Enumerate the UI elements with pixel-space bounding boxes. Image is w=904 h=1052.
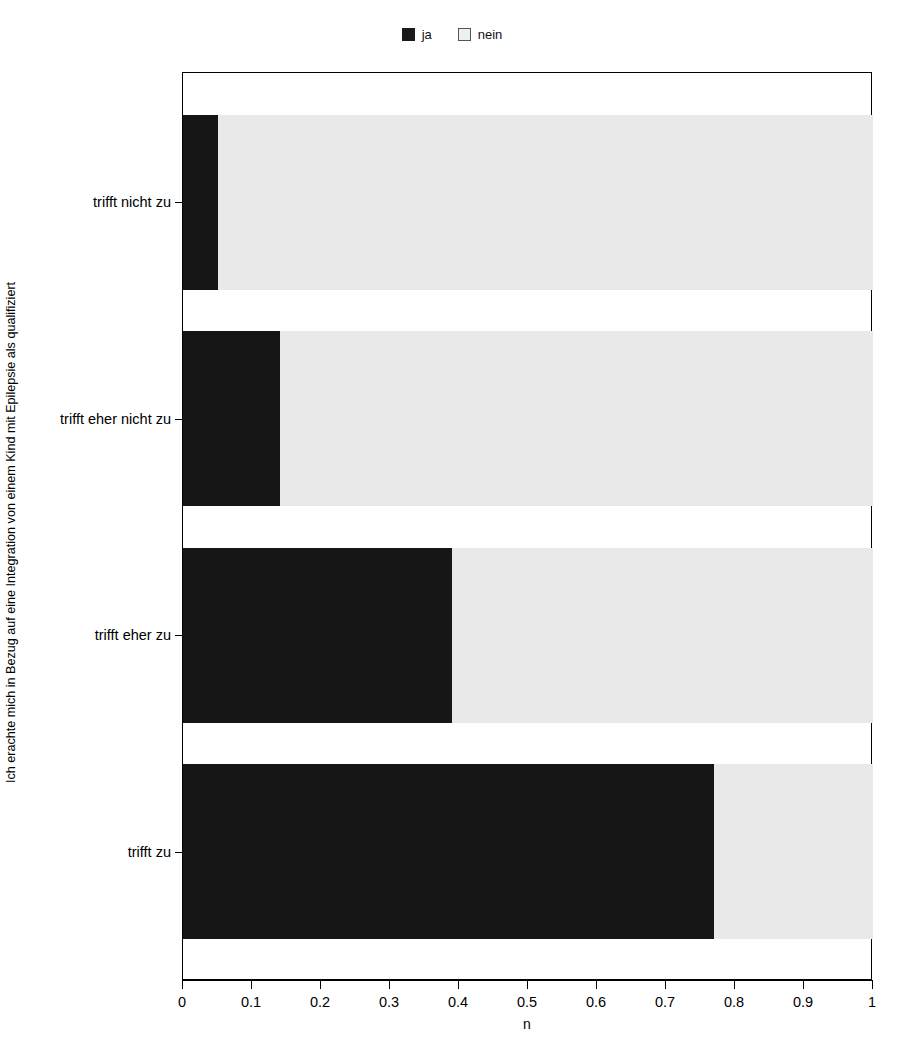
x-axis-tick — [596, 980, 597, 989]
x-axis-tick — [389, 980, 390, 989]
bar-segment-ja — [183, 764, 714, 939]
x-axis-tick — [251, 980, 252, 989]
x-axis-tick — [320, 980, 321, 989]
y-axis-tick — [175, 852, 183, 853]
x-axis-tick-label: 0 — [178, 994, 186, 1010]
x-axis-tick — [182, 980, 183, 989]
bar-segment-nein — [280, 331, 873, 506]
x-axis-tick — [527, 980, 528, 989]
x-axis-tick-label: 1 — [868, 994, 876, 1010]
x-axis-title: n — [182, 1016, 872, 1032]
legend-entry-nein: nein — [458, 28, 503, 41]
bar-row — [183, 115, 871, 290]
x-axis: 00.10.20.30.40.50.60.70.80.91 — [182, 980, 872, 981]
y-axis-tick-label: trifft nicht zu — [93, 195, 171, 210]
y-axis-tick-label: trifft zu — [128, 844, 171, 859]
x-axis-tick — [803, 980, 804, 989]
x-axis-tick-label: 0.5 — [517, 994, 537, 1010]
x-axis-tick-label: 0.6 — [586, 994, 606, 1010]
bar-segment-ja — [183, 115, 218, 290]
x-axis-tick-label: 0.3 — [379, 994, 399, 1010]
bar-segment-nein — [714, 764, 873, 939]
x-axis-tick — [734, 980, 735, 989]
x-axis-tick — [665, 980, 666, 989]
x-axis-tick-label: 0.1 — [241, 994, 261, 1010]
plot-inner: trifft nicht zutrifft eher nicht zutriff… — [183, 73, 871, 979]
y-axis-tick-label: trifft eher zu — [95, 628, 171, 643]
bar-segment-ja — [183, 548, 452, 723]
y-axis-tick-label: trifft eher nicht zu — [60, 411, 171, 426]
y-axis-title: Ich erachte mich in Bezug auf eine Integ… — [5, 282, 18, 783]
filled-square-icon — [402, 28, 415, 41]
x-axis-tick-label: 0.9 — [793, 994, 813, 1010]
x-axis-tick-label: 0.7 — [655, 994, 675, 1010]
x-axis-tick-label: 0.2 — [310, 994, 330, 1010]
x-axis-tick — [458, 980, 459, 989]
x-axis-tick-label: 0.4 — [448, 994, 468, 1010]
bar-segment-ja — [183, 331, 280, 506]
bar-row — [183, 548, 871, 723]
y-axis-tick — [175, 419, 183, 420]
plot-area: trifft nicht zutrifft eher nicht zutriff… — [182, 72, 872, 980]
legend-label-ja: ja — [422, 28, 432, 41]
bar-row — [183, 331, 871, 506]
legend-label-nein: nein — [478, 28, 503, 41]
bar-segment-nein — [218, 115, 874, 290]
x-axis-tick-label: 0.8 — [724, 994, 744, 1010]
legend-entry-ja: ja — [402, 28, 432, 41]
x-axis-tick — [872, 980, 873, 989]
bar-row — [183, 764, 871, 939]
y-axis-tick — [175, 635, 183, 636]
y-axis-tick — [175, 202, 183, 203]
bar-segment-nein — [452, 548, 873, 723]
outlined-square-icon — [458, 28, 471, 41]
chart-legend: ja nein — [0, 22, 904, 46]
